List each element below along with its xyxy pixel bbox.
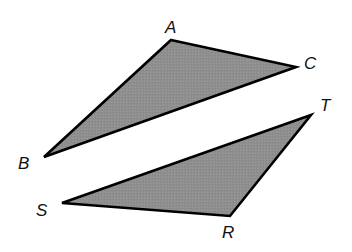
vertex-label-c: C [304,54,317,73]
triangles-diagram: A C B T S R [0,0,352,252]
vertex-label-a: A [164,18,176,37]
vertex-label-s: S [36,201,48,220]
vertex-label-b: B [18,154,29,173]
vertex-label-t: T [320,96,332,115]
vertex-label-r: R [222,223,234,242]
